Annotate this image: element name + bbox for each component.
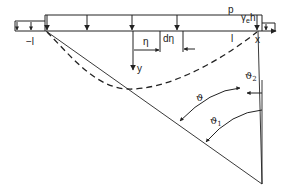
label-p: p [228,4,234,15]
left-surcharge-box [15,21,45,31]
label-theta2: ϑ2 [245,70,257,83]
uniform-load-p [45,15,262,31]
label-y: y [137,63,142,74]
label-gamma: γeh [241,12,255,24]
load-arrows [47,15,257,30]
dashed-influence-curve [47,32,257,89]
gamma-e-h-box [262,23,275,31]
label-pos-l: l [231,33,233,44]
d-eta-strip [183,31,195,52]
label-theta1: ϑ1 [210,115,222,128]
label-d-eta: dη [163,33,174,44]
label-theta: ϑ [196,92,203,103]
diagram-canvas: −l l x y p γeh η dη ϑ ϑ1 ϑ2 [0,0,287,195]
label-eta: η [143,36,149,47]
ray-from-neg-l [46,31,262,184]
label-x: x [255,34,260,45]
label-neg-l: −l [26,36,34,47]
ray-from-pos-l [258,31,262,184]
